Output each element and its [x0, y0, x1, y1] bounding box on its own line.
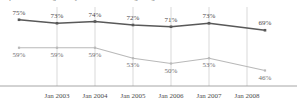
upper-series-marker: [94, 20, 97, 23]
upper-series-marker: [170, 25, 173, 28]
lower-series-marker: [208, 57, 210, 59]
x-tick-label-3: Jan 2005: [120, 92, 146, 100]
chart-plot-area: 59%59%59%53%50%53%46% 75%73%74%72%71%73%…: [0, 7, 297, 105]
x-tick-label-6: Jan 2008: [234, 92, 260, 100]
lower-series-marker: [132, 57, 134, 59]
lower-series-value-label: 53%: [127, 61, 140, 69]
upper-series-labels: 75%73%74%72%71%73%69%: [13, 9, 272, 28]
lower-series-marker: [170, 62, 172, 64]
chart-title: impact of more storage activity on the v…: [3, 0, 166, 2]
chart-container: impact of more storage activity on the v…: [0, 0, 297, 105]
upper-series-marker: [18, 18, 21, 21]
upper-series-value-label: 73%: [51, 12, 64, 20]
clipped-title-strip: impact of more storage activity on the v…: [0, 0, 297, 7]
lower-series-marker: [18, 47, 20, 49]
upper-series-value-label: 74%: [89, 11, 102, 19]
upper-series-value-label: 72%: [127, 14, 140, 22]
upper-series-marker: [132, 24, 135, 27]
lower-series-marker: [56, 47, 58, 49]
upper-series-line: [19, 20, 265, 31]
line-chart-svg: 59%59%59%53%50%53%46% 75%73%74%72%71%73%…: [0, 7, 297, 105]
lower-series-value-label: 59%: [89, 51, 102, 59]
upper-series-value-label: 69%: [259, 19, 272, 27]
lower-series-value-label: 59%: [13, 51, 26, 59]
lower-series-labels: 59%59%59%53%50%53%46%: [13, 51, 272, 82]
lower-series-marker: [94, 47, 96, 49]
lower-series-value-label: 53%: [203, 61, 216, 69]
x-axis-tick-labels: Jan 2003Jan 2004Jan 2005Jan 2006Jan 2007…: [44, 92, 260, 100]
upper-series-group: [18, 18, 267, 31]
x-tick-label-2: Jan 2004: [82, 92, 108, 100]
upper-series-value-label: 75%: [13, 9, 26, 17]
upper-series-marker: [208, 22, 211, 25]
gridlines-group: [57, 7, 247, 86]
lower-series-value-label: 50%: [165, 67, 178, 75]
x-tick-label-5: Jan 2007: [196, 92, 222, 100]
upper-series-marker: [56, 22, 59, 25]
lower-series-value-label: 59%: [51, 51, 64, 59]
upper-series-value-label: 71%: [165, 16, 178, 24]
lower-series-value-label: 46%: [259, 74, 272, 82]
upper-series-marker: [264, 29, 267, 32]
x-tick-label-4: Jan 2006: [158, 92, 184, 100]
x-tick-label-1: Jan 2003: [44, 92, 70, 100]
upper-series-value-label: 73%: [203, 12, 216, 20]
lower-series-marker: [264, 69, 266, 71]
